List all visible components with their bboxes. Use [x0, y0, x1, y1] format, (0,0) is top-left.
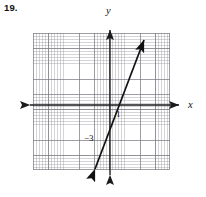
graph-vector-layer: [0, 0, 206, 197]
x-intercept-label: 1: [116, 110, 121, 119]
y-axis-label: y: [106, 6, 111, 17]
y-intercept-label: −3: [84, 134, 94, 143]
figure-container: 19. y x −3 1: [0, 0, 206, 197]
x-axis-label: x: [188, 100, 193, 111]
